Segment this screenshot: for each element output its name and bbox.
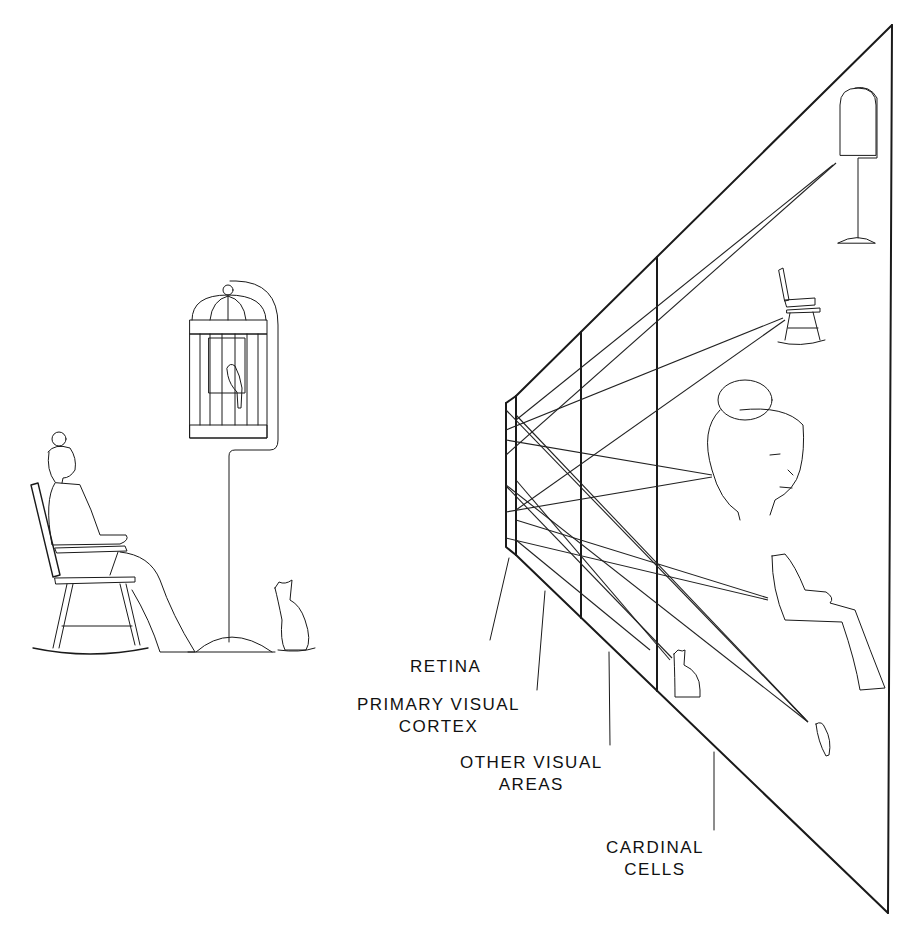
- visual-hierarchy-diagram: RETINA PRIMARY VISUAL CORTEX OTHER VISUA…: [0, 0, 910, 935]
- label-primary-visual-cortex-line2: CORTEX: [357, 716, 520, 738]
- cardinal-grandmother-face-icon: [708, 380, 804, 520]
- scene-woman-rocking-chair: [31, 432, 195, 654]
- label-other-visual-areas-line2: AREAS: [460, 774, 603, 796]
- scene-cat: [275, 580, 315, 651]
- label-primary-visual-cortex: PRIMARY VISUAL CORTEX: [357, 694, 520, 738]
- label-other-visual-areas-line1: OTHER VISUAL: [460, 752, 603, 774]
- label-primary-visual-cortex-line1: PRIMARY VISUAL: [357, 694, 520, 716]
- label-cardinal-cells: CARDINAL CELLS: [606, 837, 704, 881]
- diagram-canvas: [0, 0, 910, 935]
- cardinal-birdcage-icon: [838, 87, 877, 243]
- label-other-visual-areas: OTHER VISUAL AREAS: [460, 752, 603, 796]
- label-retina: RETINA: [410, 656, 481, 678]
- projection-lines: [506, 163, 836, 722]
- cardinal-seated-body-icon: [772, 554, 885, 690]
- cardinal-cat-icon: [674, 650, 700, 697]
- cardinal-rocking-chair-icon: [778, 268, 825, 345]
- scene-birdcage: [188, 281, 278, 652]
- label-cardinal-cells-line2: CELLS: [606, 859, 704, 881]
- label-cardinal-cells-line1: CARDINAL: [606, 837, 704, 859]
- cardinal-bird-icon: [816, 723, 830, 756]
